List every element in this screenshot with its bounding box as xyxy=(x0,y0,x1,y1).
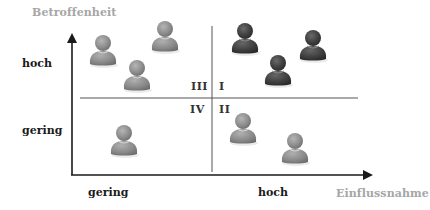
person-icon xyxy=(282,133,310,166)
y-tick-low: gering xyxy=(22,124,62,137)
x-axis-title: Einflussnahme xyxy=(336,187,429,200)
matrix-canvas xyxy=(0,0,430,210)
y-axis-title: Betroffenheit xyxy=(32,6,117,19)
person-icon xyxy=(152,21,180,54)
person-icon xyxy=(300,30,328,63)
person-icon xyxy=(230,113,258,146)
quadrant-label-iv: IV xyxy=(190,103,205,116)
y-axis-arrow-icon xyxy=(67,33,77,43)
x-tick-low: gering xyxy=(88,186,128,199)
persons-layer xyxy=(90,21,328,166)
quadrant-label-iii: III xyxy=(191,80,208,93)
y-tick-high: hoch xyxy=(22,57,52,70)
quadrant-label-ii: II xyxy=(219,103,230,116)
person-icon xyxy=(265,55,293,88)
person-icon xyxy=(232,23,260,56)
person-icon xyxy=(124,60,152,93)
person-icon xyxy=(111,125,139,158)
quadrant-label-i: I xyxy=(219,80,225,93)
x-tick-high: hoch xyxy=(258,186,288,199)
person-icon xyxy=(90,35,118,68)
x-axis-arrow-icon xyxy=(363,170,373,180)
